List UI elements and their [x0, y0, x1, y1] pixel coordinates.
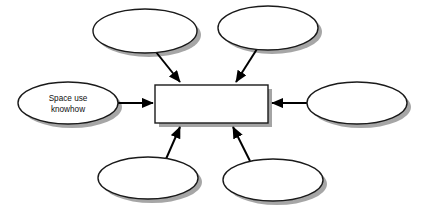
arrow-bottom-left	[166, 127, 180, 159]
node-top-left-ellipse[interactable]	[93, 9, 197, 53]
center-box[interactable]	[155, 85, 268, 123]
diagram-canvas: Space use knowhow	[0, 0, 424, 213]
node-top-right[interactable]	[218, 6, 318, 50]
node-left-label-line2: knowhow	[51, 105, 85, 114]
node-top-right-ellipse[interactable]	[218, 6, 318, 50]
node-bottom-right[interactable]	[223, 159, 323, 201]
node-bottom-left-ellipse[interactable]	[98, 157, 198, 199]
node-right[interactable]	[307, 82, 407, 124]
shape-layer: Space use knowhow	[18, 6, 407, 201]
concept-diagram: Space use knowhow	[0, 0, 424, 213]
arrow-top-left	[156, 52, 180, 82]
center-box-rect[interactable]	[155, 85, 268, 123]
arrow-top-right	[236, 49, 257, 82]
node-top-left[interactable]	[93, 9, 197, 53]
node-left-label-line1: Space use	[49, 94, 88, 103]
arrow-bottom-right	[233, 127, 250, 161]
node-bottom-right-ellipse[interactable]	[223, 159, 323, 201]
node-bottom-left[interactable]	[98, 157, 198, 199]
node-left[interactable]: Space use knowhow	[18, 82, 118, 124]
node-right-ellipse[interactable]	[307, 82, 407, 124]
